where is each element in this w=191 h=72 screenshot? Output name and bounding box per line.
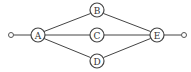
output-terminal — [182, 33, 187, 38]
network-diagram: A B C D E — [0, 0, 191, 72]
node-a: A — [31, 28, 45, 42]
edge-d-e — [104, 39, 151, 58]
node-a-label: A — [34, 31, 42, 41]
node-c: C — [90, 28, 104, 42]
edge-b-e — [104, 14, 151, 32]
node-e-label: E — [154, 31, 161, 41]
input-terminal — [9, 33, 14, 38]
node-b: B — [90, 3, 104, 17]
edge-a-d — [44, 39, 91, 58]
node-c-label: C — [94, 31, 101, 41]
node-d-label: D — [93, 57, 100, 67]
node-e: E — [150, 28, 164, 42]
edge-a-b — [44, 14, 91, 32]
diagram-svg: A B C D E — [0, 0, 191, 72]
node-d: D — [90, 54, 104, 68]
node-b-label: B — [94, 6, 101, 16]
